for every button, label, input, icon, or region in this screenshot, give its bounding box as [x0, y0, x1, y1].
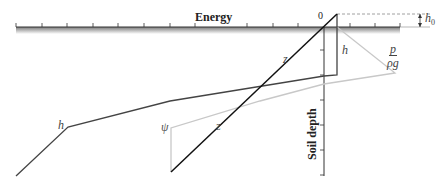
total-head-line	[16, 14, 337, 176]
soil-depth-axis-ticks	[320, 50, 324, 175]
z-upper-label: z	[283, 53, 288, 65]
energy-axis-label: Energy	[195, 11, 232, 23]
h-lower-label: h	[58, 119, 64, 131]
energy-axis	[16, 23, 400, 34]
energy-depth-diagram	[0, 0, 444, 180]
z-lower-label: z	[216, 120, 221, 132]
pressure-head-line	[171, 27, 395, 172]
soil-depth-axis	[320, 27, 324, 176]
h-upper-label: h	[342, 44, 348, 56]
soil-depth-axis-label: Soil depth	[306, 108, 318, 160]
h0-indicator	[337, 14, 430, 27]
origin-label: 0	[318, 11, 323, 21]
psi-label: ψ	[161, 121, 168, 133]
h0-label: h0	[425, 12, 435, 27]
pressure-head-label: p ρg	[387, 43, 399, 69]
